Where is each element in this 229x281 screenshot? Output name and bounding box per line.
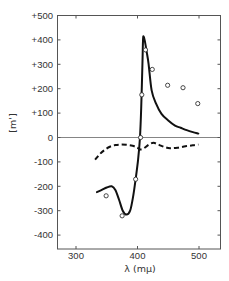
x-axis-label: λ (mμ) <box>124 263 155 274</box>
data-point-marker <box>143 48 147 52</box>
y-tick-label: -200 <box>34 181 53 192</box>
data-point-marker <box>104 194 108 198</box>
y-tick-label: +100 <box>32 107 53 118</box>
y-tick-label: -100 <box>34 156 53 167</box>
data-points <box>104 48 200 218</box>
y-tick-label: -400 <box>34 229 53 240</box>
data-point-marker <box>140 93 144 97</box>
y-tick-label: -300 <box>34 205 53 216</box>
x-tick-label: 300 <box>68 250 84 261</box>
data-point-marker <box>150 67 154 71</box>
chart: +500+400+300+200+1000-100-200-300-400 30… <box>0 0 229 281</box>
solid-curve <box>97 36 198 214</box>
data-point-marker <box>181 86 185 90</box>
x-axis-tick-labels: 300400500 <box>68 250 207 261</box>
x-tick-label: 400 <box>130 250 146 261</box>
dashed-curve <box>95 143 198 160</box>
data-point-marker <box>134 177 138 181</box>
y-tick-label: +200 <box>32 83 53 94</box>
data-point-marker <box>138 135 142 139</box>
data-series <box>95 36 200 218</box>
y-tick-label: +500 <box>32 10 53 21</box>
data-point-marker <box>120 214 124 218</box>
x-tick-label: 500 <box>191 250 207 261</box>
y-axis-tick-labels: +500+400+300+200+1000-100-200-300-400 <box>32 10 53 241</box>
y-tick-label: 0 <box>48 132 53 143</box>
data-point-marker <box>166 83 170 87</box>
y-tick-label: +300 <box>32 59 53 70</box>
data-point-marker <box>196 101 200 105</box>
y-tick-label: +400 <box>32 34 53 45</box>
y-axis-label: [m'] <box>7 113 18 132</box>
